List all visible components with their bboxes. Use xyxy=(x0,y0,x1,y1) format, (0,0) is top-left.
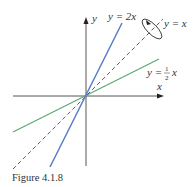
label-half-x-prefix: y = xyxy=(146,66,162,78)
y-axis-label: y xyxy=(91,12,97,24)
label-half-x-num: 1 xyxy=(165,65,169,73)
x-axis-arrow-icon xyxy=(157,94,164,99)
label-half-x-den: 2 xyxy=(165,74,169,82)
label-two-x: y = 2x xyxy=(107,10,136,22)
label-identity: y = x xyxy=(163,17,187,29)
line-identity xyxy=(13,19,163,169)
diagram-canvas: y x y = 2x y = x y = 1 2 x xyxy=(0,0,194,187)
rotation-ellipse-icon xyxy=(139,16,164,41)
y-axis-arrow-icon xyxy=(84,17,89,24)
label-half-x-suffix: x xyxy=(171,66,177,78)
x-axis-label: x xyxy=(156,80,162,92)
figure-caption: Figure 4.1.8 xyxy=(12,172,63,183)
